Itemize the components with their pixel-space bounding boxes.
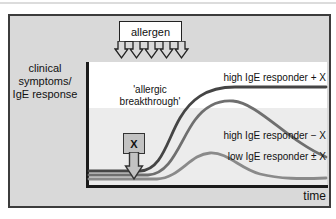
x-factor-arrow-icon [122,152,146,182]
y-axis-line [86,62,89,188]
x-axis-line [86,185,328,188]
curve-label-low-ige-pm-x: low IgE responder ± X [228,151,326,162]
x-axis-label: time [303,189,326,203]
curve-label-high-ige-plus-x: high IgE responder + X [223,72,326,83]
x-factor-label: X [130,138,137,150]
allergen-arrows-icon [114,41,190,61]
x-factor-box: X [123,133,145,154]
y-axis-label: clinical symptoms/ IgE response [6,62,84,101]
allergen-label: allergen [131,26,170,38]
allergen-box: allergen [119,21,182,42]
breakthrough-annotation: 'allergic breakthrough' [103,84,197,107]
top-rule [0,2,336,4]
curve-label-high-ige-minus-x: high IgE responder − X [223,130,326,141]
figure-allergic-breakthrough: allergen clinical symptoms/ IgE response… [0,0,336,219]
